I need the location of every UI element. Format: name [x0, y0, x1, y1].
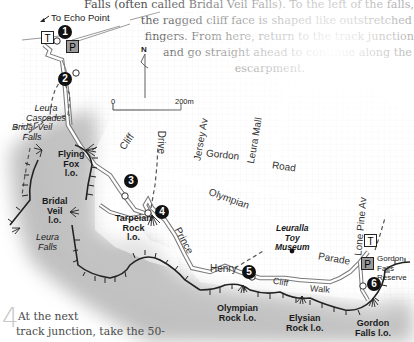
echo-point-label: To Echo Point: [51, 12, 110, 23]
step-line-2: track junction, take the 50-: [16, 324, 165, 339]
parking-icon: P: [66, 40, 79, 53]
street-henry: Henry: [210, 263, 237, 274]
step-paragraph: At the next track junction, take the 50-: [18, 309, 165, 339]
street-drive: Drive: [156, 131, 167, 154]
scale-end: 200m: [175, 97, 194, 106]
label-gordon-falls-lookout: Gordon Falls l.o.: [355, 319, 391, 338]
toilet-icon: T: [41, 31, 54, 44]
parking-icon: P: [361, 257, 374, 270]
label-tarpeian-rock-lookout: Tarpeian Rock l.o.: [115, 214, 152, 243]
label-flying-fox-lookout: Flying Fox l.o.: [58, 150, 85, 179]
waypoint-marker-1: 1: [58, 25, 72, 39]
waypoint-marker-5: 5: [242, 265, 256, 279]
scale-start: 0: [111, 97, 115, 106]
label-bridal-veil-falls: Bridal Veil Falls: [12, 123, 52, 142]
label-leuralla-toy-museum: Leuralla Toy Museum: [275, 224, 309, 253]
waypoint-marker-3: 3: [124, 174, 138, 188]
label-olympian-rock-lookout: Olympian Rock l.o.: [217, 304, 258, 323]
north-label: N: [141, 45, 147, 54]
label-gordon-falls-reserve: Gordon Falls Reserve: [377, 254, 407, 283]
label-leura-falls: Leura Falls: [36, 233, 59, 252]
label-elysian-rock-lookout: Elysian Rock l.o.: [286, 314, 324, 333]
toilet-icon: T: [364, 234, 377, 247]
waypoint-marker-2: 2: [58, 72, 72, 86]
guidebook-page: Falls (often called Bridal Veil Falls). …: [0, 0, 414, 342]
waypoint-marker-4: 4: [155, 205, 169, 219]
label-leura-cascades: Leura Cascades: [26, 104, 66, 123]
step-line-1: At the next: [18, 309, 165, 324]
street-cliff-walk-2: Walk: [310, 283, 330, 295]
label-bridal-veil-lookout: Bridal Veil l.o.: [42, 197, 68, 226]
